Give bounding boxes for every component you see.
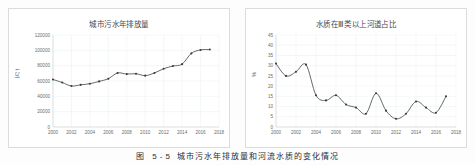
x-tick-label: 2000 [48, 130, 59, 135]
data-point-marker [305, 64, 307, 66]
data-point-marker [209, 49, 211, 51]
x-tick-label: 2016 [195, 130, 206, 135]
x-tick-label: 2002 [66, 130, 77, 135]
line-chart-left: 0200004000060000800001000001200002000200… [9, 9, 231, 149]
y-tick-label: 20 [268, 84, 274, 89]
data-point-marker [61, 81, 63, 83]
data-point-marker [163, 68, 165, 70]
data-point-marker [445, 95, 447, 97]
x-tick-label: 2014 [177, 130, 188, 135]
x-tick-label: 2000 [271, 130, 282, 135]
figure-caption-number: 图 5-5 [136, 152, 173, 161]
data-point-marker [385, 110, 387, 112]
data-point-marker [405, 113, 407, 115]
series-line [276, 64, 446, 119]
y-tick-label: 30 [268, 63, 274, 68]
data-point-marker [375, 92, 377, 94]
y-tick-label: 25 [268, 74, 274, 79]
data-point-marker [181, 63, 183, 65]
data-point-marker [70, 85, 72, 87]
y-tick-label: 15 [268, 94, 274, 99]
data-point-marker [365, 113, 367, 115]
data-point-marker [153, 72, 155, 74]
y-tick-label: 40 [268, 43, 274, 48]
y-tick-label: 20000 [37, 109, 50, 114]
data-point-marker [126, 73, 128, 75]
y-tick-label: 120000 [35, 33, 51, 38]
y-tick-label: 0 [47, 125, 50, 130]
y-tick-label: 40000 [37, 94, 50, 99]
data-point-marker [52, 78, 54, 80]
x-tick-label: 2018 [451, 130, 462, 135]
x-tick-label: 2010 [140, 130, 151, 135]
line-chart-right: 0510152025303540452000200220042006200820… [246, 9, 468, 149]
data-point-marker [315, 94, 317, 96]
x-tick-label: 2008 [351, 130, 362, 135]
y-tick-label: 100000 [35, 48, 51, 53]
data-point-marker [107, 78, 109, 80]
data-point-marker [80, 84, 82, 86]
data-point-marker [415, 100, 417, 102]
x-tick-label: 2006 [103, 130, 114, 135]
data-point-marker [117, 72, 119, 74]
y-tick-label: 5 [270, 114, 273, 119]
x-tick-label: 2010 [371, 130, 382, 135]
plot-area-left: 0200004000060000800001000001200002000200… [9, 9, 229, 147]
data-point-marker [295, 71, 297, 73]
chart-panel-sewage-discharge: 城市污水年排放量 万 t 020000400006000080000100000… [8, 8, 230, 148]
data-point-marker [190, 52, 192, 54]
data-point-marker [89, 83, 91, 85]
data-point-marker [200, 49, 202, 51]
data-point-marker [335, 94, 337, 96]
x-tick-label: 2004 [311, 130, 322, 135]
data-point-marker [435, 112, 437, 114]
y-tick-label: 35 [268, 53, 274, 58]
x-tick-label: 2004 [85, 130, 96, 135]
x-tick-label: 2008 [122, 130, 133, 135]
data-point-marker [395, 118, 397, 120]
y-tick-label: 80000 [37, 63, 50, 68]
x-tick-label: 2006 [331, 130, 342, 135]
plot-area-right: 0510152025303540452000200220042006200820… [246, 9, 466, 147]
figure-caption-text: 城市污水年排放量和河流水质的变化情况 [177, 152, 339, 161]
x-tick-label: 2014 [411, 130, 422, 135]
series-line [53, 50, 210, 87]
figure-container: 城市污水年排放量 万 t 020000400006000080000100000… [0, 0, 475, 165]
y-tick-label: 10 [268, 104, 274, 109]
data-point-marker [98, 80, 100, 82]
y-tick-label: 0 [270, 125, 273, 130]
data-point-marker [144, 75, 146, 77]
x-tick-label: 2012 [391, 130, 402, 135]
chart-panel-water-quality: 水质在Ⅲ类以上河道占比 % 05101520253035404520002002… [245, 8, 467, 148]
data-point-marker [325, 99, 327, 101]
x-tick-label: 2016 [431, 130, 442, 135]
data-point-marker [135, 73, 137, 75]
y-tick-label: 60000 [37, 79, 50, 84]
data-point-marker [285, 75, 287, 77]
x-tick-label: 2012 [159, 130, 170, 135]
data-point-marker [425, 107, 427, 109]
figure-caption: 图 5-5城市污水年排放量和河流水质的变化情况 [0, 150, 475, 165]
x-tick-label: 2018 [214, 130, 225, 135]
data-point-marker [345, 103, 347, 105]
x-tick-label: 2002 [291, 130, 302, 135]
y-tick-label: 45 [268, 33, 274, 38]
data-point-marker [275, 63, 277, 65]
data-point-marker [355, 107, 357, 109]
data-point-marker [172, 65, 174, 67]
